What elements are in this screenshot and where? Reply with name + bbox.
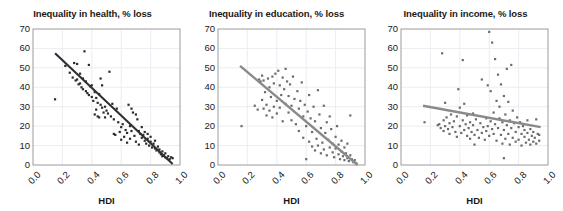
data-point <box>145 143 147 145</box>
data-point <box>481 132 483 134</box>
data-point <box>343 159 345 161</box>
gridlines <box>218 29 365 165</box>
data-point <box>459 125 461 127</box>
data-point <box>88 64 90 66</box>
data-point <box>267 77 269 79</box>
data-point <box>491 42 493 44</box>
data-point <box>441 52 443 54</box>
data-point <box>337 153 339 155</box>
data-point <box>114 134 116 136</box>
data-point <box>535 143 537 145</box>
y-axis-tick-label: 0 <box>189 159 215 170</box>
data-point <box>440 127 442 129</box>
chart-panel-income: Inequality in income, % loss010203040506… <box>368 0 563 211</box>
data-point <box>337 144 339 146</box>
data-point <box>493 133 495 135</box>
data-point <box>287 95 289 97</box>
data-point <box>254 105 256 107</box>
data-point <box>280 94 282 96</box>
data-point <box>526 119 528 121</box>
data-point <box>172 157 174 159</box>
data-point <box>277 70 279 72</box>
data-point <box>133 135 135 137</box>
data-point <box>289 83 291 85</box>
data-point <box>484 139 486 141</box>
data-point <box>79 73 81 75</box>
data-point <box>494 58 496 60</box>
data-point <box>286 80 288 82</box>
data-point <box>154 140 156 142</box>
data-point <box>147 133 149 135</box>
y-axis-tick-label: 10 <box>372 140 398 151</box>
data-point <box>113 118 115 120</box>
data-point <box>136 118 138 120</box>
data-point <box>282 76 284 78</box>
data-point <box>333 156 335 158</box>
data-point <box>444 102 446 104</box>
data-point <box>444 125 446 127</box>
data-point <box>481 78 483 80</box>
y-axis-tick-label: 60 <box>189 42 215 53</box>
data-point <box>304 104 306 106</box>
data-point <box>342 155 344 157</box>
data-point <box>507 101 509 103</box>
data-point <box>123 136 125 138</box>
y-axis-tick-label: 40 <box>372 81 398 92</box>
data-point <box>69 72 71 74</box>
data-point <box>315 138 317 140</box>
data-point <box>273 82 275 84</box>
data-point <box>498 106 500 108</box>
trend-line <box>240 66 358 165</box>
data-point <box>532 141 534 143</box>
data-point <box>282 120 284 122</box>
data-point <box>497 127 499 129</box>
data-point <box>150 136 152 138</box>
data-point <box>311 131 313 133</box>
data-point <box>478 137 480 139</box>
data-point <box>515 141 517 143</box>
data-point <box>120 126 122 128</box>
data-point <box>320 127 322 129</box>
data-point <box>497 74 499 76</box>
x-axis-label: HDI <box>33 195 180 206</box>
data-point <box>472 124 474 126</box>
data-point <box>76 63 78 65</box>
y-axis-tick-label: 20 <box>189 120 215 131</box>
data-point <box>261 99 263 101</box>
data-point <box>100 77 102 79</box>
data-point <box>504 113 506 115</box>
data-point <box>101 84 103 86</box>
data-point <box>117 121 119 123</box>
data-point <box>312 106 314 108</box>
data-point <box>271 76 273 78</box>
data-point <box>466 135 468 137</box>
y-axis-tick-label: 0 <box>372 159 398 170</box>
data-point <box>127 104 129 106</box>
data-point <box>126 132 128 134</box>
data-point <box>535 118 537 120</box>
data-point <box>460 132 462 134</box>
data-point <box>534 137 536 139</box>
data-point <box>264 91 266 93</box>
data-point <box>107 112 109 114</box>
data-point <box>276 112 278 114</box>
data-point <box>80 86 82 88</box>
y-axis-tick-label: 70 <box>189 23 215 34</box>
data-point <box>500 83 502 85</box>
y-axis-tick-label: 60 <box>372 42 398 53</box>
data-point <box>503 129 505 131</box>
data-point <box>468 127 470 129</box>
y-axis-tick-label: 70 <box>4 23 30 34</box>
data-point <box>495 100 497 102</box>
data-point <box>295 123 297 125</box>
data-point <box>349 114 351 116</box>
data-point <box>454 131 456 133</box>
data-point <box>324 132 326 134</box>
y-axis-tick-label: 70 <box>372 23 398 34</box>
data-point <box>443 119 445 121</box>
data-point <box>88 94 90 96</box>
data-point <box>523 129 525 131</box>
data-point <box>451 126 453 128</box>
data-point <box>104 116 106 118</box>
data-point <box>332 151 334 153</box>
